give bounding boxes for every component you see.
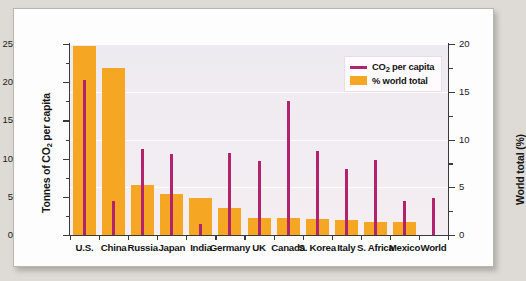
x-axis-label-uk: UK <box>252 242 266 253</box>
x-axis-tick <box>157 236 158 240</box>
gridline <box>70 44 448 45</box>
left-axis-minor-tick <box>66 63 70 64</box>
left-axis-tick-label: 5 <box>8 191 13 202</box>
line-marker-germany <box>228 153 231 236</box>
x-axis-tick <box>70 236 71 240</box>
left-axis-tick <box>63 82 69 83</box>
right-axis-tick <box>449 187 455 188</box>
x-axis-tick <box>274 236 275 240</box>
right-axis-title: World total (%) <box>514 134 526 205</box>
legend-item-co2-per-capita: CO2 per capita <box>350 61 434 74</box>
left-axis-title-pre: Tonnes of CO <box>40 147 52 213</box>
right-axis-tick <box>449 140 455 141</box>
line-swatch-icon <box>350 66 367 69</box>
left-axis-minor-tick <box>66 140 70 141</box>
chart-legend: CO2 per capita % world total <box>344 56 442 92</box>
x-axis-label-russia: Russia <box>128 242 158 253</box>
x-axis-tick <box>244 236 245 240</box>
x-axis-tick <box>186 236 187 240</box>
x-axis-label-italy: Italy <box>337 242 355 253</box>
left-axis-minor-tick <box>66 216 70 217</box>
left-axis-title: Tonnes of CO2 per capita <box>40 93 54 213</box>
left-axis-tick <box>63 159 69 160</box>
left-axis-tick-label: 10 <box>2 153 13 164</box>
gridline <box>70 140 448 141</box>
x-axis-tick <box>215 236 216 240</box>
right-axis-tick <box>449 92 455 93</box>
left-axis-tick <box>63 120 69 121</box>
x-axis-label-germany: Germany <box>210 242 250 253</box>
left-axis-tick-label: 25 <box>2 38 13 49</box>
right-axis-minor-tick <box>449 68 453 69</box>
x-axis-label-world: World <box>420 242 446 253</box>
left-axis-minor-tick <box>66 101 70 102</box>
right-axis-minor-tick <box>449 116 453 117</box>
right-axis-tick <box>449 235 455 236</box>
legend-label-co2-per-capita: CO2 per capita <box>372 61 434 74</box>
legend-item-world-total: % world total <box>350 74 434 87</box>
line-marker-world <box>432 198 435 235</box>
left-axis-minor-tick <box>66 178 70 179</box>
right-axis-tick-label: 20 <box>459 38 470 49</box>
left-axis-tick-label: 15 <box>2 114 13 125</box>
x-axis-tick <box>390 236 391 240</box>
left-axis-tick-label: 0 <box>8 229 13 240</box>
x-axis-tick <box>448 236 449 240</box>
left-axis-tick <box>63 197 69 198</box>
line-marker-uk <box>258 161 261 235</box>
line-marker-russia <box>141 149 144 235</box>
x-axis-label-mexico: Mexico <box>389 242 420 253</box>
left-axis-tick <box>63 44 69 45</box>
x-axis-tick <box>332 236 333 240</box>
x-axis-tick <box>419 236 420 240</box>
chart-card: Tonnes of CO2 per capita World total (%)… <box>13 8 494 267</box>
x-axis-label-u-s: U.S. <box>76 242 94 253</box>
x-axis-label-s-korea: S. Korea <box>298 242 335 253</box>
line-marker-china <box>112 201 115 235</box>
line-marker-s-korea <box>316 151 319 235</box>
right-axis-tick-label: 10 <box>459 134 470 145</box>
x-axis-tick <box>361 236 362 240</box>
x-axis-label-china: China <box>101 242 127 253</box>
x-axis-label-japan: Japan <box>158 242 185 253</box>
left-axis-tick <box>63 235 69 236</box>
line-marker-japan <box>170 154 173 235</box>
right-axis-minor-tick <box>449 163 453 164</box>
right-axis-tick-label: 15 <box>459 86 470 97</box>
x-axis-tick <box>99 236 100 240</box>
bar-swatch-icon <box>350 76 367 85</box>
line-marker-s-africa <box>374 160 377 235</box>
x-axis-tick <box>303 236 304 240</box>
right-axis-tick <box>449 44 455 45</box>
legend-label-world-total: % world total <box>372 75 428 86</box>
x-axis-spine <box>69 235 449 236</box>
line-marker-italy <box>345 169 348 235</box>
x-axis-tick <box>128 236 129 240</box>
left-axis-title-post: per capita <box>40 93 52 143</box>
left-axis-tick-label: 20 <box>2 76 13 87</box>
line-marker-mexico <box>403 201 406 235</box>
line-marker-india <box>199 224 202 235</box>
right-axis-tick-label: 5 <box>459 181 464 192</box>
right-axis-tick-label: 0 <box>459 229 464 240</box>
x-axis-label-india: India <box>190 242 211 253</box>
line-marker-u-s <box>83 80 86 235</box>
left-axis-spine <box>69 43 70 236</box>
left-axis-title-subscript: 2 <box>45 143 54 147</box>
right-axis-minor-tick <box>449 211 453 212</box>
line-marker-canada <box>287 101 290 235</box>
